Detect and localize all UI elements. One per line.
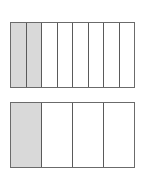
unshaded-part — [89, 23, 105, 87]
fraction-bar-fourths — [10, 102, 135, 168]
unshaded-part — [73, 103, 104, 167]
shaded-part — [27, 23, 43, 87]
shaded-part — [11, 103, 42, 167]
shaded-part — [11, 23, 27, 87]
unshaded-part — [104, 23, 120, 87]
unshaded-part — [58, 23, 74, 87]
unshaded-part — [120, 23, 135, 87]
unshaded-part — [42, 103, 73, 167]
unshaded-part — [104, 103, 134, 167]
fraction-bar-eighths — [10, 22, 135, 88]
unshaded-part — [73, 23, 89, 87]
unshaded-part — [42, 23, 58, 87]
